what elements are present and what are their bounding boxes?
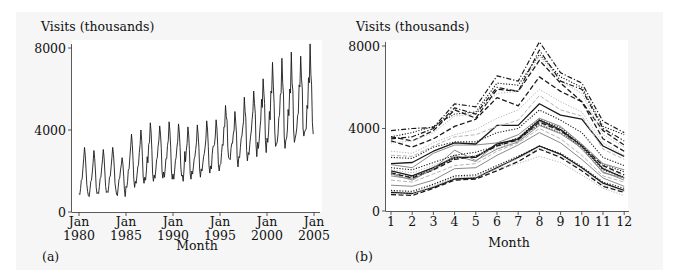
y-tick-label: 4000	[348, 121, 380, 136]
y-ticks-a: 040008000	[34, 41, 71, 220]
x-tick-label: 5	[472, 214, 480, 229]
x-tick-label: 4	[451, 214, 459, 229]
x-tick-label: 2	[408, 214, 416, 229]
x-tick-label-month: Jan	[208, 214, 231, 229]
x-tick-label: 1	[387, 214, 395, 229]
x-tick-label-month: Jan	[67, 214, 90, 229]
y-axis-title-b: Visits (thousands)	[355, 19, 469, 34]
y-tick-label: 8000	[348, 39, 380, 54]
chart-b-seasonal: Visits (thousands) 040008000 12345678910…	[348, 19, 632, 264]
x-tick-label-year: 2005	[298, 228, 330, 243]
x-tick-label: 8	[535, 214, 543, 229]
y-tick-label: 4000	[34, 123, 66, 138]
x-tick-label-month: Jan	[161, 214, 184, 229]
x-tick-label-month: Jan	[302, 214, 325, 229]
y-tick-label: 0	[372, 204, 380, 219]
x-tick-label-year: 1980	[63, 228, 95, 243]
x-tick-label: 10	[574, 214, 590, 229]
x-axis-title-a: Month	[176, 238, 217, 253]
y-tick-label: 0	[58, 205, 66, 220]
y-tick-label: 8000	[34, 41, 66, 56]
y-ticks-b: 040008000	[348, 39, 385, 219]
x-tick-label: 9	[557, 214, 565, 229]
x-tick-label: 7	[514, 214, 522, 229]
panel-label-b: (b)	[355, 249, 373, 264]
x-tick-label: 11	[595, 214, 611, 229]
x-axis-title-b: Month	[488, 235, 529, 250]
chart-a-time-series: Visits (thousands) 040008000 Jan1980Jan1…	[34, 19, 330, 264]
x-tick-label: 6	[493, 214, 501, 229]
y-axis-title-a: Visits (thousands)	[40, 19, 154, 34]
x-tick-label-month: Jan	[114, 214, 137, 229]
x-tick-label-year: 1985	[110, 228, 142, 243]
x-tick-label: 3	[429, 214, 437, 229]
x-ticks-b: 123456789101112	[387, 212, 632, 230]
panel-label-a: (a)	[42, 249, 59, 264]
x-tick-label: 12	[616, 214, 632, 229]
figure: Visits (thousands) 040008000 Jan1980Jan1…	[0, 0, 681, 279]
x-tick-label-year: 2000	[251, 228, 283, 243]
x-tick-label-month: Jan	[255, 214, 278, 229]
